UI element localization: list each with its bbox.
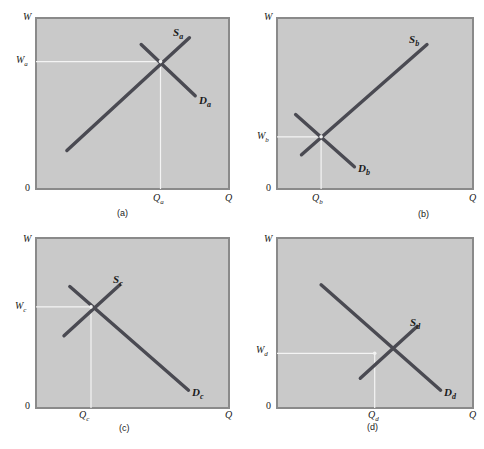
panel-c-demand-label: Dc <box>192 387 204 401</box>
panel-b-equilibrium-point <box>319 135 323 139</box>
panel-c-plot-area <box>36 238 229 408</box>
panel-a-plot <box>0 0 242 225</box>
panel-d-demand-label: Dd <box>444 387 456 401</box>
panel-a-equilibrium-point <box>159 60 163 64</box>
panel-a: W Wa 0 Qa Q Sa Da (a) <box>0 0 242 225</box>
supply-demand-figure: W Wa 0 Qa Q Sa Da (a) W Wb 0 Qb Q <box>0 0 484 449</box>
panel-b-demand-label: Db <box>358 163 370 177</box>
panel-c-equilibrium-point <box>89 305 93 309</box>
panel-c-supply-label: Sc <box>113 274 123 288</box>
panel-b-supply-label: Sb <box>409 34 419 48</box>
panel-c-plot <box>0 224 242 449</box>
panel-c: W 0 Wc Qc Q Sc Dc (c) <box>0 224 242 449</box>
panel-a-supply-label: Sa <box>173 27 183 41</box>
panel-b-caption: (b) <box>418 210 429 219</box>
panel-b: W Wb 0 Qb Q Sb Db (b) <box>242 0 484 225</box>
panel-a-caption: (a) <box>117 209 128 218</box>
panel-a-demand-label: Da <box>199 95 211 109</box>
panel-d-equilibrium-point <box>373 352 377 356</box>
panel-d-supply-label: Sd <box>410 317 420 331</box>
panel-d-plot <box>242 224 484 449</box>
panel-b-plot-area <box>277 18 473 189</box>
panel-b-plot <box>242 0 484 225</box>
panel-d-caption: (d) <box>367 423 378 432</box>
panel-c-caption: (c) <box>119 424 130 433</box>
panel-d: W Wd 0 Qd Q Sd Dd (d) <box>242 224 484 449</box>
